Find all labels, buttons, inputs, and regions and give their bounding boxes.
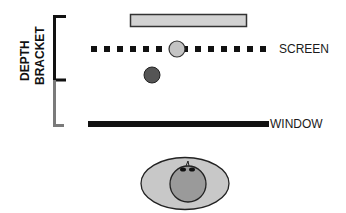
viewer-head [141,158,229,210]
depth-bracket-upper [55,17,67,81]
far-plane-bar [131,15,247,27]
on-screen-object [169,41,185,57]
left-eye-icon [180,168,186,172]
depth-bracket-lower [55,80,65,126]
window-label: WINDOW [270,118,323,130]
stereo-depth-diagram: DEPTH BRACKET SCREEN WINDOW [0,0,346,213]
viewer-head-circle [170,166,206,202]
bracket-label: BRACKET [34,26,46,85]
diagram-canvas [0,0,346,213]
window-plane-line [88,121,269,127]
in-front-object [144,67,160,83]
depth-label: DEPTH [19,40,31,81]
screen-label: SCREEN [279,43,329,55]
depth-bracket [55,17,67,126]
right-eye-icon [189,168,195,172]
